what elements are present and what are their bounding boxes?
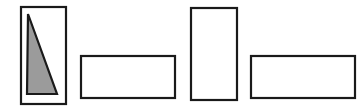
tall-rectangle-right (191, 8, 237, 100)
wide-rectangle-right (251, 56, 355, 98)
wide-rectangle-left (81, 56, 175, 98)
figure-canvas (0, 0, 358, 109)
geometric-shapes-figure (0, 0, 358, 109)
